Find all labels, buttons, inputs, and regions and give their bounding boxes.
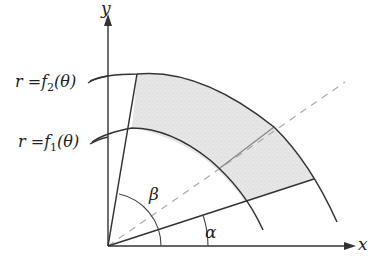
- label-eq: =: [28, 72, 41, 91]
- label-r: r: [18, 132, 26, 151]
- alpha-label: α: [205, 222, 216, 242]
- f1-label: r =f1(θ): [18, 132, 79, 154]
- label-r: r: [15, 72, 23, 91]
- label-arg: (θ): [54, 72, 76, 91]
- x-axis-arrow-icon: [344, 242, 356, 250]
- beta-ray: [108, 74, 137, 246]
- label-arg: (θ): [57, 132, 79, 151]
- y-axis-label: y: [101, 0, 111, 18]
- beta-label: β: [149, 184, 159, 204]
- label-eq: =: [31, 132, 44, 151]
- f2-leader: [88, 76, 108, 83]
- x-axis-label: x: [358, 234, 368, 254]
- f2-label: r =f2(θ): [15, 72, 76, 94]
